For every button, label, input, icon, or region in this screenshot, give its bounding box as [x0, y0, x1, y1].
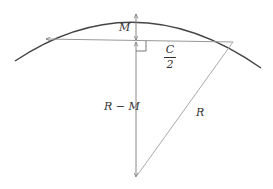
label-radius: R	[196, 107, 204, 118]
chord-line	[46, 39, 233, 42]
radius-line	[136, 42, 233, 177]
diagram-canvas	[0, 0, 273, 189]
right-angle-marker	[136, 41, 146, 51]
half-chord-numerator: C	[163, 44, 177, 56]
label-sagitta: M	[119, 22, 130, 33]
half-chord-denominator: 2	[163, 59, 177, 71]
circle-segment-diagram: M C 2 R − M R	[0, 0, 273, 189]
arc	[15, 22, 261, 68]
label-half-chord: C 2	[163, 44, 177, 71]
label-apothem: R − M	[104, 101, 140, 112]
